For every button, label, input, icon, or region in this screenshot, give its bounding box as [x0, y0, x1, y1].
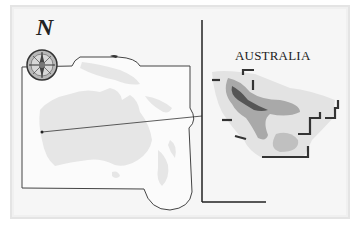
- compass-rose-icon: [27, 50, 57, 80]
- compass-north-label: N: [36, 14, 53, 41]
- australia-inset-map: [212, 70, 338, 158]
- inset-title: AUSTRALIA: [235, 48, 310, 64]
- map-illustration: [0, 0, 360, 229]
